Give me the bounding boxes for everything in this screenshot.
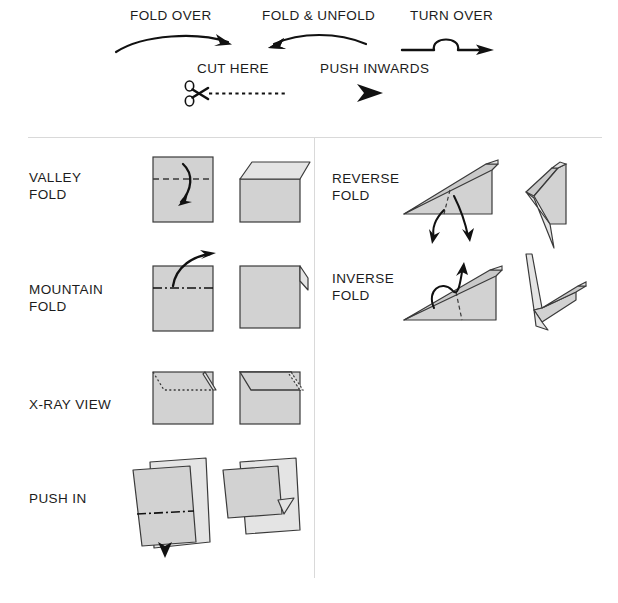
legend-label-turn-over: TURN OVER [410,8,493,23]
row-label-valley-fold: VALLEY FOLD [29,169,81,203]
row-label-push-in: PUSH IN [29,490,87,507]
row-label-mountain-fold: MOUNTAIN FOLD [29,281,103,315]
loop-arrow-icon [398,28,502,56]
row-label-reverse-fold: REVERSE FOLD [332,170,399,204]
legend-label-cut-here: CUT HERE [197,61,269,76]
row-label-inverse-fold: INVERSE FOLD [332,270,394,304]
column-divider [314,138,315,578]
row-label-x-ray-view: X-RAY VIEW [29,396,111,413]
figure-mountain-fold [148,248,313,333]
figure-push-in [128,452,313,562]
curved-double-arrow-icon [262,28,378,58]
figure-valley-fold [148,152,313,232]
origami-symbols-sheet: FOLD OVER FOLD & UNFOLD TURN OVER CUT HE… [0,0,618,603]
solid-arrowhead-icon [355,80,395,106]
figure-reverse-fold [400,152,600,257]
scissors-dashed-line-icon [182,80,292,108]
header-divider [28,137,602,138]
figure-x-ray-view [148,366,313,428]
figure-inverse-fold [400,250,600,350]
legend-label-fold-over: FOLD OVER [130,8,212,23]
legend-label-push-inwards: PUSH INWARDS [320,61,429,76]
legend-label-fold-unfold: FOLD & UNFOLD [262,8,375,23]
curved-arrow-right-icon [112,28,242,58]
